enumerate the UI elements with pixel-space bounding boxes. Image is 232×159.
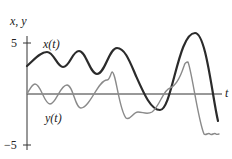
x-series-label: x(t) [42, 37, 60, 51]
y-axis-label: x, y [9, 14, 27, 28]
tick-label-neg5: −5 [4, 138, 17, 152]
t-axis-label: t [225, 86, 229, 100]
chart: x, y 5 −5 t x(t) y(t) [0, 0, 232, 159]
tick-label-5: 5 [11, 36, 17, 50]
y-series-label: y(t) [44, 111, 62, 125]
